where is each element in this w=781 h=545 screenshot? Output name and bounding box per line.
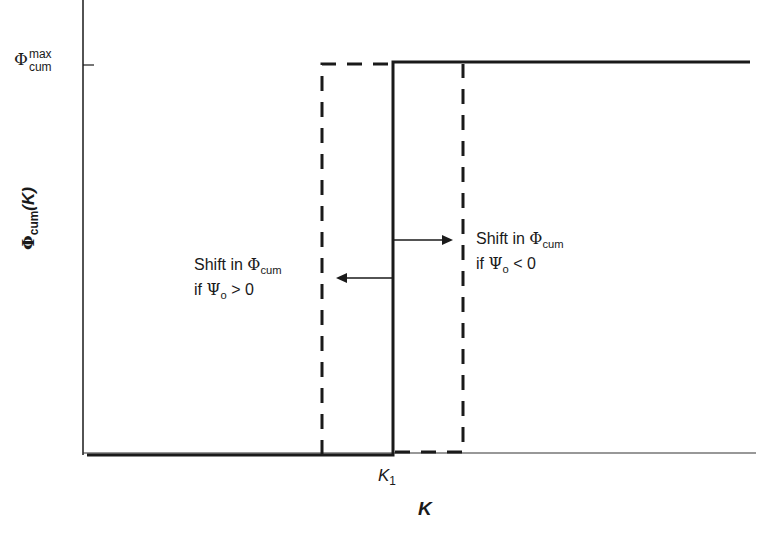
- k-argument: (K): [19, 187, 38, 211]
- y-max-label: Φmaxcum: [14, 48, 52, 74]
- left-shift-annotation: Shift in Φcum if Ψo > 0: [194, 255, 282, 305]
- solid-step-curve: [87, 62, 750, 455]
- right-shift-annotation: Shift in Φcum if Ψo < 0: [476, 229, 564, 279]
- annotation-line-2: if Ψo < 0: [476, 254, 564, 279]
- annotation-line-1: Shift in Φcum: [194, 255, 282, 280]
- right-shift-arrow: [394, 235, 453, 245]
- dashed-right-step-curve: [395, 64, 463, 452]
- left-shift-arrow: [336, 273, 392, 283]
- y-axis-label: Φcum(K): [18, 187, 41, 250]
- dashed-left-step-curve: [322, 64, 393, 455]
- max-superscript: max: [29, 47, 52, 61]
- annotation-text: if: [194, 281, 206, 298]
- phi-symbol: Φ: [18, 235, 38, 250]
- k-symbol: K: [378, 466, 389, 485]
- psi-symbol: Ψ: [206, 280, 220, 299]
- x-axis-label: K: [418, 498, 432, 520]
- psi-symbol: Ψ: [488, 254, 502, 273]
- cum-subscript: cum: [27, 211, 41, 235]
- k1-tick-label: K1: [378, 466, 396, 488]
- annotation-text: Shift in: [476, 230, 529, 247]
- cum-subscript: cum: [260, 264, 281, 276]
- condition-text: < 0: [509, 255, 536, 272]
- phi-symbol: Φ: [14, 49, 28, 69]
- phi-symbol: Φ: [529, 229, 542, 248]
- annotation-line-1: Shift in Φcum: [476, 229, 564, 254]
- condition-text: > 0: [227, 281, 254, 298]
- annotation-text: if: [476, 255, 488, 272]
- cum-subscript: cum: [542, 238, 563, 250]
- one-subscript: 1: [389, 474, 396, 488]
- annotation-text: Shift in: [194, 256, 247, 273]
- sup-sub-stack: maxcum: [29, 48, 52, 74]
- phi-symbol: Φ: [247, 255, 260, 274]
- annotation-line-2: if Ψo > 0: [194, 280, 282, 305]
- step-function-diagram: [0, 0, 781, 545]
- cum-subscript: cum: [29, 60, 52, 74]
